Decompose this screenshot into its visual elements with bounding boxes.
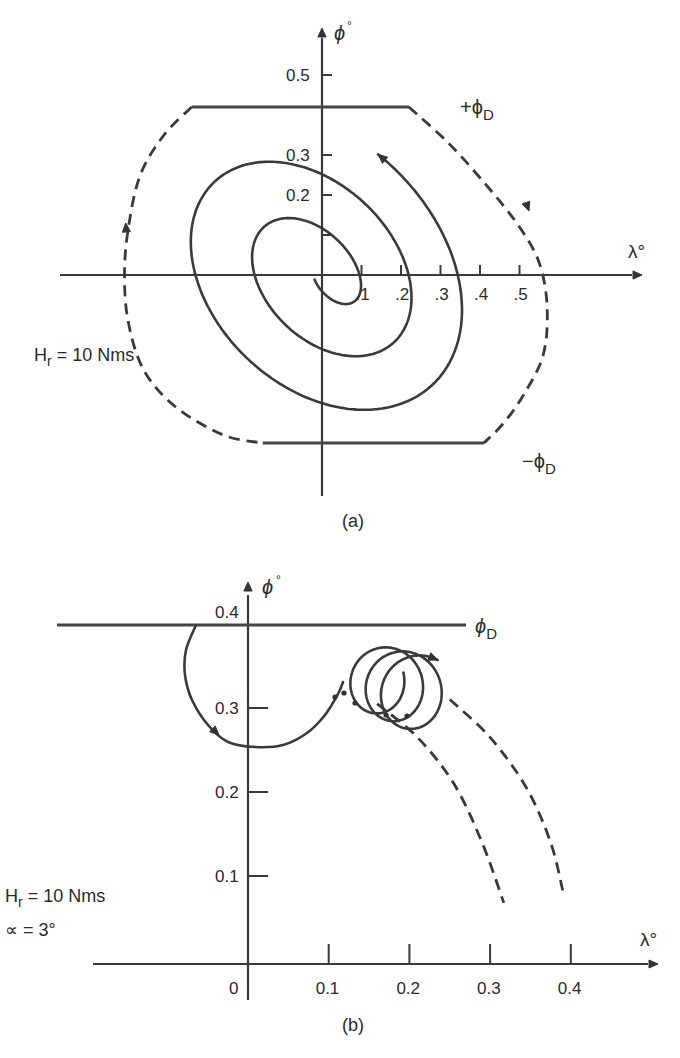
x-tick-label: 0 (229, 979, 238, 998)
panel-b: 00.10.20.30.40.10.20.30.4ϕ°λ°ϕDHr = 10 N… (5, 573, 658, 1035)
dashed-curve-outer (450, 700, 563, 891)
upper-deadband-label: +ϕD (460, 96, 494, 123)
loop-marker (383, 712, 388, 717)
hr-annotation: Hr = 10 Nms (5, 886, 105, 910)
y-axis-arrow (244, 582, 252, 591)
caption-b: (b) (342, 1015, 364, 1035)
y-axis-label: ϕ (334, 22, 345, 44)
y-tick-label: 0.4 (215, 603, 239, 622)
x-axis-label: λ° (640, 929, 657, 950)
y-axis-degree: ° (347, 19, 352, 33)
y-tick-label: 0.5 (286, 66, 310, 85)
y-tick-label: 0.3 (286, 146, 310, 165)
y-axis-label: ϕ (262, 576, 273, 598)
panel-a: .1.2.3.4.50.20.30.5ϕ°λ°+ϕD−ϕDHr = 10 Nms… (34, 19, 645, 531)
loop-marker (341, 690, 346, 695)
x-axis-arrow (649, 960, 658, 968)
spiral-trajectory (191, 154, 462, 409)
trajectory-arc (184, 625, 343, 747)
x-axis-label: λ° (628, 241, 645, 262)
lower-deadband-label: −ϕD (522, 450, 556, 477)
loop-marker (332, 694, 337, 699)
x-axis-arrow (633, 271, 642, 279)
x-tick-label: .5 (514, 285, 528, 304)
y-tick-label: 0.2 (215, 783, 239, 802)
caption-a: (a) (342, 511, 364, 531)
y-tick-label: 0.3 (215, 699, 239, 718)
x-tick-label: .2 (395, 285, 409, 304)
y-tick-label: 0.2 (286, 186, 310, 205)
x-tick-label: .3 (435, 285, 449, 304)
alpha-annotation: ∝ = 3° (5, 920, 56, 940)
x-tick-label: .1 (356, 285, 370, 304)
x-tick-label: 0.2 (396, 979, 420, 998)
y-axis-arrow (318, 28, 326, 37)
loop-marker (404, 713, 409, 718)
y-tick-label: 0.1 (215, 867, 239, 886)
x-tick-label: 0.4 (558, 979, 582, 998)
deadband-label: ϕD (475, 615, 497, 642)
x-tick-label: 0.1 (316, 979, 340, 998)
dashed-curve-inner (377, 704, 504, 903)
loop-end-arrow (428, 653, 438, 661)
y-axis-degree: ° (276, 573, 281, 587)
hr-annotation: Hr = 10 Nms (34, 345, 134, 369)
x-tick-label: 0.3 (477, 979, 501, 998)
boundary-arrow-right (522, 201, 530, 211)
figure: .1.2.3.4.50.20.30.5ϕ°λ°+ϕD−ϕDHr = 10 Nms… (0, 0, 680, 1058)
loop-marker (352, 700, 357, 705)
x-tick-label: .4 (474, 285, 488, 304)
